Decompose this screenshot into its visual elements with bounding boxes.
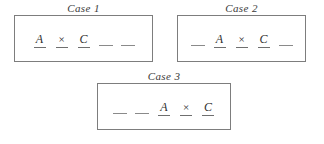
filled-slot: C — [73, 29, 95, 49]
case-block-2: Case 2 A×C — [177, 2, 306, 62]
blank-slot — [187, 29, 209, 49]
multiplication-icon: × — [231, 33, 253, 45]
filled-slot: A — [209, 29, 231, 49]
filled-slot: C — [197, 97, 219, 117]
slot-underline — [99, 45, 113, 46]
filled-slot: × — [51, 29, 73, 49]
case-arrangements-figure: Case 1 A×C Case 2 A×C Case 3 A×C — [0, 0, 324, 144]
multiplication-icon: × — [175, 101, 197, 113]
filled-slot: × — [231, 29, 253, 49]
slot-underline — [258, 47, 270, 48]
blank-slot — [109, 97, 131, 117]
slot-underline — [180, 115, 192, 116]
slot-letter: C — [73, 33, 95, 45]
case-box-2: A×C — [177, 15, 306, 62]
slot-underline — [158, 115, 170, 116]
case-block-3: Case 3 A×C — [97, 70, 231, 130]
slot-underline — [214, 47, 226, 48]
filled-slot: A — [29, 29, 51, 49]
blank-slot — [117, 29, 139, 49]
slot-underline — [121, 45, 135, 46]
filled-slot: A — [153, 97, 175, 117]
slot-underline — [78, 47, 90, 48]
slot-letter: C — [197, 101, 219, 113]
slot-underline — [34, 47, 46, 48]
filled-slot: C — [253, 29, 275, 49]
slot-underline — [279, 45, 293, 46]
case-label-2: Case 2 — [177, 2, 306, 15]
case-box-1: A×C — [14, 15, 153, 62]
slot-letter: A — [153, 101, 175, 113]
slot-underline — [202, 115, 214, 116]
blank-slot — [95, 29, 117, 49]
filled-slot: × — [175, 97, 197, 117]
slot-underline — [135, 113, 149, 114]
case-label-3: Case 3 — [97, 70, 231, 83]
blank-slot — [275, 29, 297, 49]
slot-row-1: A×C — [29, 29, 139, 49]
slot-letter: C — [253, 33, 275, 45]
slot-underline — [113, 113, 127, 114]
slot-underline — [56, 47, 68, 48]
slot-underline — [191, 45, 205, 46]
blank-slot — [131, 97, 153, 117]
case-label-1: Case 1 — [14, 2, 153, 15]
slot-underline — [236, 47, 248, 48]
slot-row-3: A×C — [109, 97, 219, 117]
case-box-3: A×C — [97, 83, 231, 130]
slot-row-2: A×C — [187, 29, 297, 49]
case-block-1: Case 1 A×C — [14, 2, 153, 62]
multiplication-icon: × — [51, 33, 73, 45]
slot-letter: A — [29, 33, 51, 45]
slot-letter: A — [209, 33, 231, 45]
